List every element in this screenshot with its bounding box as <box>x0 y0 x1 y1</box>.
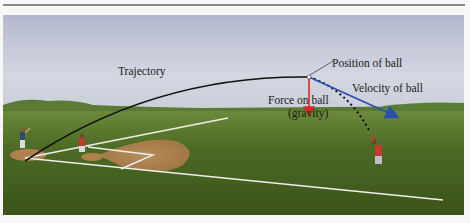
pitcher <box>79 134 85 152</box>
velocity-label: Velocity of ball <box>352 83 423 95</box>
force-label-line2: (gravity) <box>288 108 328 120</box>
scene-illustration <box>3 15 464 215</box>
baseball-scene: Trajectory Position of ball Velocity of … <box>3 15 464 215</box>
force-label-line1: Force on ball <box>268 95 329 107</box>
top-rule <box>3 4 465 6</box>
position-label: Position of ball <box>332 58 402 70</box>
pitcher-mound <box>81 153 103 161</box>
trajectory-label: Trajectory <box>118 66 165 78</box>
ball-position <box>307 75 311 79</box>
